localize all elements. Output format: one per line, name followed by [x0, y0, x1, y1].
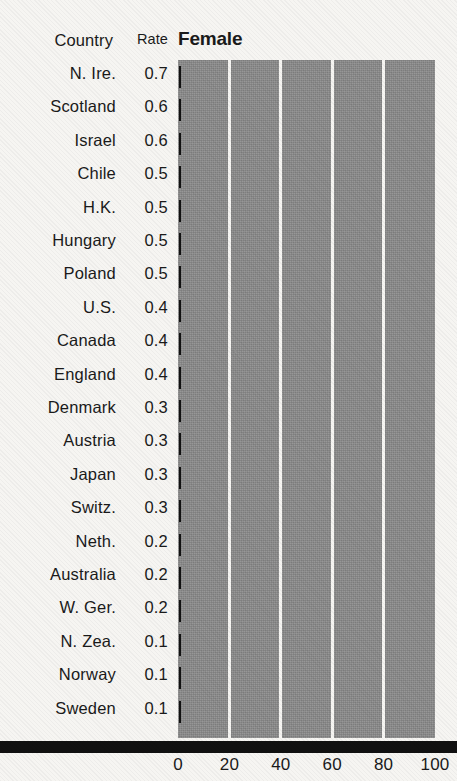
- cell-country: W. Ger.: [60, 598, 116, 617]
- table-row: Austria0.3: [0, 431, 172, 453]
- x-tick-label-100: 100: [421, 755, 450, 775]
- bar-n-ire: [179, 66, 181, 88]
- cell-country: Hungary: [52, 231, 116, 250]
- cell-country: Canada: [57, 331, 116, 350]
- bar-austria: [179, 433, 181, 455]
- cell-country: H.K.: [83, 198, 116, 217]
- bar-canada: [179, 333, 181, 355]
- cell-rate: 0.3: [128, 465, 168, 484]
- bar-norway: [179, 667, 181, 689]
- cell-rate: 0.3: [128, 431, 168, 450]
- cell-rate: 0.4: [128, 365, 168, 384]
- cell-rate: 0.2: [128, 598, 168, 617]
- bar-hungary: [179, 233, 181, 255]
- cell-rate: 0.3: [128, 498, 168, 517]
- table-row: W. Ger.0.2: [0, 598, 172, 620]
- cell-country: N. Ire.: [70, 64, 116, 83]
- x-axis-tick-labels: 020406080100: [0, 755, 457, 781]
- gridline-x-20: [228, 60, 231, 738]
- table-row: Israel0.6: [0, 131, 172, 153]
- cell-rate: 0.6: [128, 97, 168, 116]
- cell-country: U.S.: [83, 298, 116, 317]
- scan-speck: [238, 356, 240, 358]
- cell-country: England: [54, 365, 116, 384]
- bar-w-ger: [179, 600, 181, 622]
- bar-denmark: [179, 400, 181, 422]
- cell-country: Sweden: [55, 699, 116, 718]
- gridline-x-40: [279, 60, 282, 738]
- bar-england: [179, 367, 181, 389]
- cell-rate: 0.1: [128, 699, 168, 718]
- table-row: Australia0.2: [0, 565, 172, 587]
- cell-rate: 0.6: [128, 131, 168, 150]
- gridline-x-80: [382, 60, 385, 738]
- bar-switz: [179, 500, 181, 522]
- table-row: Poland0.5: [0, 264, 172, 286]
- bar-neth: [179, 534, 181, 556]
- table-row: Sweden0.1: [0, 699, 172, 721]
- cell-country: Chile: [77, 164, 116, 183]
- bar-h-k: [179, 200, 181, 222]
- cell-rate: 0.4: [128, 331, 168, 350]
- x-axis-rule: [0, 741, 457, 753]
- country-rate-table: Country Rate N. Ire.0.7Scotland0.6Israel…: [0, 0, 172, 740]
- bar-poland: [179, 266, 181, 288]
- cell-rate: 0.5: [128, 264, 168, 283]
- x-tick-label-40: 40: [271, 755, 290, 775]
- figure-panel-female: Country Rate N. Ire.0.7Scotland0.6Israel…: [0, 0, 457, 781]
- cell-country: Norway: [59, 665, 116, 684]
- bar-australia: [179, 567, 181, 589]
- table-row: N. Zea.0.1: [0, 632, 172, 654]
- table-row: Scotland0.6: [0, 97, 172, 119]
- x-tick-label-0: 0: [173, 755, 183, 775]
- cell-country: Japan: [70, 465, 116, 484]
- bar-n-zea: [179, 634, 181, 656]
- cell-rate: 0.5: [128, 164, 168, 183]
- scan-speck: [234, 350, 237, 353]
- gridline-x-60: [331, 60, 334, 738]
- cell-rate: 0.4: [128, 298, 168, 317]
- x-tick-label-80: 80: [374, 755, 393, 775]
- cell-country: Israel: [74, 131, 116, 150]
- x-tick-label-60: 60: [323, 755, 342, 775]
- cell-rate: 0.1: [128, 632, 168, 651]
- bar-japan: [179, 467, 181, 489]
- table-row: England0.4: [0, 365, 172, 387]
- table-row: Japan0.3: [0, 465, 172, 487]
- cell-rate: 0.1: [128, 665, 168, 684]
- cell-country: Denmark: [48, 398, 116, 417]
- plot-area: [178, 60, 435, 738]
- table-row: Hungary0.5: [0, 231, 172, 253]
- table-header-row: Country Rate: [0, 31, 172, 53]
- cell-rate: 0.3: [128, 398, 168, 417]
- bar-scotland: [179, 99, 181, 121]
- bar-israel: [179, 133, 181, 155]
- x-tick-label-20: 20: [220, 755, 239, 775]
- cell-country: Poland: [63, 264, 116, 283]
- table-row: N. Ire.0.7: [0, 64, 172, 86]
- bar-u-s: [179, 300, 181, 322]
- cell-country: Switz.: [71, 498, 116, 517]
- bar-sweden: [179, 701, 181, 723]
- table-row: U.S.0.4: [0, 298, 172, 320]
- table-row: Neth.0.2: [0, 532, 172, 554]
- bar-chile: [179, 166, 181, 188]
- cell-country: Scotland: [50, 97, 116, 116]
- cell-rate: 0.5: [128, 231, 168, 250]
- plot-title: Female: [178, 28, 242, 50]
- table-row: Denmark0.3: [0, 398, 172, 420]
- table-row: Canada0.4: [0, 331, 172, 353]
- table-row: Chile0.5: [0, 164, 172, 186]
- cell-rate: 0.2: [128, 532, 168, 551]
- cell-country: N. Zea.: [60, 632, 116, 651]
- cell-rate: 0.2: [128, 565, 168, 584]
- cell-country: Neth.: [76, 532, 116, 551]
- table-row: Switz.0.3: [0, 498, 172, 520]
- table-row: H.K.0.5: [0, 198, 172, 220]
- cell-country: Austria: [63, 431, 116, 450]
- table-row: Norway0.1: [0, 665, 172, 687]
- cell-rate: 0.5: [128, 198, 168, 217]
- cell-country: Australia: [50, 565, 116, 584]
- column-header-country: Country: [55, 31, 113, 50]
- cell-rate: 0.7: [128, 64, 168, 83]
